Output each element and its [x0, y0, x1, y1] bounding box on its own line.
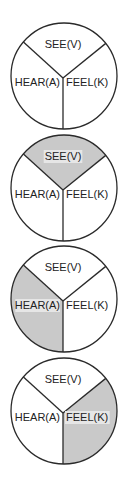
label-see: SEE(V)	[45, 373, 82, 385]
label-feel: FEEL(K)	[66, 188, 108, 200]
vak-diagram: SEE(V)HEAR(A)FEEL(K)SEE(V)HEAR(A)FEEL(K)…	[0, 0, 129, 494]
label-see: SEE(V)	[45, 150, 82, 162]
label-see: SEE(V)	[45, 38, 82, 50]
label-feel: FEEL(K)	[66, 76, 108, 88]
label-see: SEE(V)	[45, 261, 82, 273]
circle-3: SEE(V)HEAR(A)FEEL(K)	[11, 246, 117, 352]
label-hear: HEAR(A)	[15, 411, 60, 423]
label-hear: HEAR(A)	[15, 299, 60, 311]
label-hear: HEAR(A)	[15, 188, 60, 200]
circle-2: SEE(V)HEAR(A)FEEL(K)	[11, 135, 117, 241]
circle-1: SEE(V)HEAR(A)FEEL(K)	[11, 23, 117, 129]
label-feel: FEEL(K)	[66, 411, 108, 423]
label-hear: HEAR(A)	[15, 76, 60, 88]
label-feel: FEEL(K)	[66, 299, 108, 311]
circle-4: SEE(V)HEAR(A)FEEL(K)	[11, 358, 117, 464]
